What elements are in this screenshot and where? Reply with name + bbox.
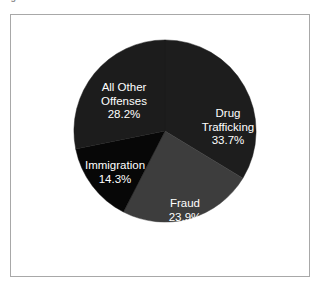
- caption-fragment: Figure 1. Offenses: [2, 0, 152, 2]
- pie-chart: Drug Trafficking 33.7% Fraud 23.9% Immig…: [73, 39, 257, 223]
- pie-slice-all-other-offenses: [74, 40, 165, 149]
- chart-frame: Drug Trafficking 33.7% Fraud 23.9% Immig…: [10, 14, 310, 277]
- pie-slice-group: [74, 40, 256, 222]
- pie-svg: [73, 39, 257, 223]
